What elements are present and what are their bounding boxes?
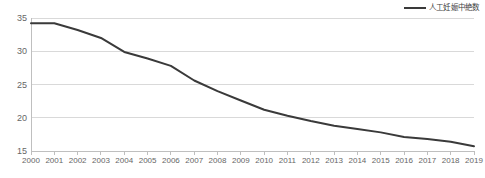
x-tick-label-2004: 2004 bbox=[115, 157, 133, 165]
y-tick-label-20: 20 bbox=[17, 113, 27, 122]
x-tick-label-2007: 2007 bbox=[185, 157, 203, 165]
legend-entry-label: 人工妊娠中絶数 bbox=[429, 3, 479, 13]
x-tick-label-2006: 2006 bbox=[162, 157, 180, 165]
x-tick-label-2014: 2014 bbox=[349, 157, 367, 165]
x-axis-ticks bbox=[31, 151, 474, 155]
x-tick-label-2001: 2001 bbox=[45, 157, 63, 165]
gridlines bbox=[31, 18, 474, 151]
y-tick-label-35: 35 bbox=[17, 14, 27, 23]
x-tick-label-2003: 2003 bbox=[92, 157, 110, 165]
x-tick-label-2012: 2012 bbox=[302, 157, 320, 165]
y-tick-label-25: 25 bbox=[17, 80, 27, 89]
x-tick-label-2002: 2002 bbox=[69, 157, 87, 165]
x-tick-label-2008: 2008 bbox=[209, 157, 227, 165]
x-tick-label-2017: 2017 bbox=[418, 157, 436, 165]
legend-entry-abortion-count[interactable]: 人工妊娠中絶数 bbox=[404, 3, 479, 13]
x-tick-label-2015: 2015 bbox=[372, 157, 390, 165]
x-tick-label-2011: 2011 bbox=[279, 157, 296, 165]
x-tick-label-2010: 2010 bbox=[255, 157, 273, 165]
legend-line-swatch-icon bbox=[404, 7, 426, 9]
x-tick-label-2016: 2016 bbox=[395, 157, 413, 165]
x-tick-label-2018: 2018 bbox=[442, 157, 460, 165]
chart-legend: 人工妊娠中絶数 bbox=[404, 1, 479, 14]
x-tick-label-2013: 2013 bbox=[325, 157, 343, 165]
x-tick-label-2000: 2000 bbox=[22, 157, 40, 165]
x-tick-label-2009: 2009 bbox=[232, 157, 250, 165]
line-chart: 人工妊娠中絶数 1520253035 200020012002200320042… bbox=[0, 0, 485, 178]
x-tick-label-2005: 2005 bbox=[139, 157, 157, 165]
y-tick-label-30: 30 bbox=[17, 47, 27, 56]
plot-area: 1520253035 20002001200220032004200520062… bbox=[31, 18, 474, 151]
y-tick-label-15: 15 bbox=[17, 147, 27, 156]
x-tick-label-2019: 2019 bbox=[465, 157, 483, 165]
chart-canvas bbox=[31, 18, 474, 151]
